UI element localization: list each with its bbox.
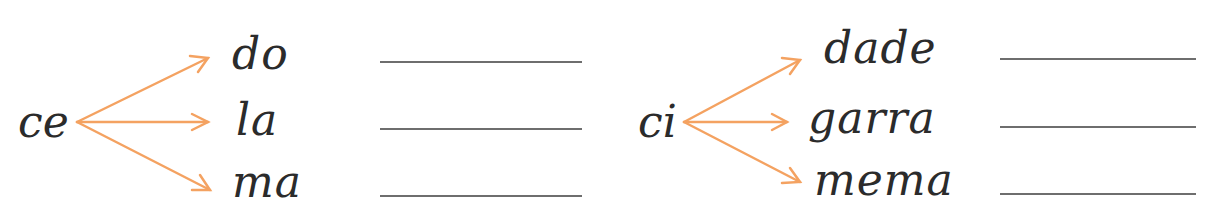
answer-line[interactable] — [380, 61, 582, 63]
answer-line[interactable] — [380, 195, 582, 197]
answer-line[interactable] — [1000, 193, 1196, 195]
syllable-word: mema — [814, 158, 954, 202]
syllable-word: dade — [824, 26, 937, 70]
arrows-icon — [0, 0, 612, 212]
exercise-group-ce: ce do la ma — [0, 0, 612, 212]
answer-line[interactable] — [1000, 126, 1196, 128]
syllable-word: la — [236, 98, 278, 142]
answer-line[interactable] — [1000, 58, 1196, 60]
answer-line[interactable] — [380, 128, 582, 130]
syllable-word: ma — [232, 160, 302, 204]
syllable-word: do — [232, 32, 289, 76]
syllable-word: garra — [808, 96, 936, 140]
exercise-group-ci: ci dade garra mema — [612, 0, 1224, 212]
